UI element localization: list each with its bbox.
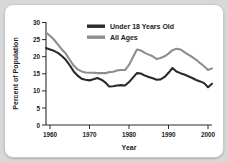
line-chart-svg: 30 25 20 15 10 5 0 1960 1970 1980 1990 2…: [5, 5, 224, 158]
y-tick-label-0: 0: [36, 122, 40, 129]
x-tick-label-2000: 2000: [201, 131, 216, 138]
x-tick-label-1990: 1990: [161, 131, 176, 138]
y-tick-label-10: 10: [33, 87, 41, 94]
y-tick-label-5: 5: [36, 105, 40, 112]
x-tick-label-1970: 1970: [82, 131, 97, 138]
legend-swatch-under-18: [87, 25, 105, 28]
x-axis-ticks: [50, 125, 208, 129]
legend-label-under-18: Under 18 Years Old: [110, 23, 174, 30]
y-tick-label-30: 30: [33, 19, 41, 26]
y-axis-title: Percent of Population: [12, 37, 20, 109]
y-axis-ticks: [42, 23, 46, 126]
y-tick-label-25: 25: [33, 36, 41, 43]
y-tick-label-15: 15: [33, 70, 41, 77]
x-tick-label-1960: 1960: [43, 131, 58, 138]
chart-legend: Under 18 Years Old All Ages: [87, 23, 174, 42]
chart-card: 30 25 20 15 10 5 0 1960 1970 1980 1990 2…: [4, 4, 224, 158]
x-tick-label-1980: 1980: [122, 131, 137, 138]
legend-label-all-ages: All Ages: [110, 34, 138, 42]
legend-swatch-all-ages: [87, 36, 105, 39]
chart-plot-area: 30 25 20 15 10 5 0 1960 1970 1980 1990 2…: [5, 5, 224, 158]
y-tick-label-20: 20: [33, 53, 41, 60]
x-axis-title: Year: [122, 144, 137, 151]
